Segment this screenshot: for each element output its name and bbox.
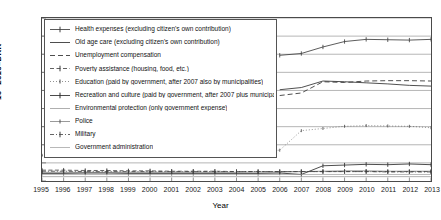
legend-item-label: Police [75, 118, 93, 125]
x-axis-tick-label: 2013 [417, 186, 441, 193]
figure: 109 2010–DKK 050100150200250300350400450… [0, 0, 441, 220]
legend-item: Recreation and culture (paid by governme… [47, 88, 274, 101]
legend-item: Military [47, 128, 274, 141]
legend-line-swatch-icon [47, 36, 73, 49]
legend: Health expenses (excluding citizen's own… [44, 19, 277, 158]
legend-item-label: Unemployment compensation [75, 52, 161, 59]
series-line [280, 81, 431, 90]
legend-line-swatch-icon [47, 102, 73, 115]
legend-item-label: Government administration [75, 144, 153, 151]
legend-item-label: Education (paid by government, after 200… [75, 79, 263, 86]
x-axis-title: Year [0, 201, 441, 210]
x-tick-marks [42, 178, 431, 181]
y-axis-title: 109 2010–DKK [0, 44, 3, 100]
legend-item: Poverty assistance (housing, food, etc.) [47, 62, 274, 75]
legend-line-swatch-icon [47, 75, 73, 88]
legend-item-label: Poverty assistance (housing, food, etc.) [75, 66, 189, 73]
legend-line-swatch-icon [47, 49, 73, 62]
legend-item: Unemployment compensation [47, 49, 274, 62]
legend-item-label: Health expenses (excluding citizen's own… [75, 26, 231, 33]
legend-line-swatch-icon [47, 62, 73, 75]
y-axis-title-mantissa: 10 [0, 91, 3, 100]
legend-line-swatch-icon [47, 23, 73, 36]
legend-item: Old age care (excluding citizen's own co… [47, 36, 274, 49]
legend-item-label: Military [75, 131, 96, 138]
legend-line-swatch-icon [47, 128, 73, 141]
legend-item-label: Old age care (excluding citizen's own co… [75, 39, 220, 46]
legend-item: Health expenses (excluding citizen's own… [47, 23, 274, 36]
legend-line-swatch-icon [47, 141, 73, 154]
legend-item: Police [47, 115, 274, 128]
legend-line-swatch-icon [47, 115, 73, 128]
legend-line-swatch-icon [47, 89, 73, 102]
y-axis-title-unit: 2010–DKK [0, 44, 3, 88]
legend-item-label: Environmental protection (only governmen… [75, 105, 227, 112]
legend-item: Government administration [47, 141, 274, 154]
legend-item: Education (paid by government, after 200… [47, 75, 274, 88]
legend-item: Environmental protection (only governmen… [47, 102, 274, 115]
legend-item-label: Recreation and culture (paid by governme… [75, 92, 274, 99]
series-line [280, 81, 431, 96]
